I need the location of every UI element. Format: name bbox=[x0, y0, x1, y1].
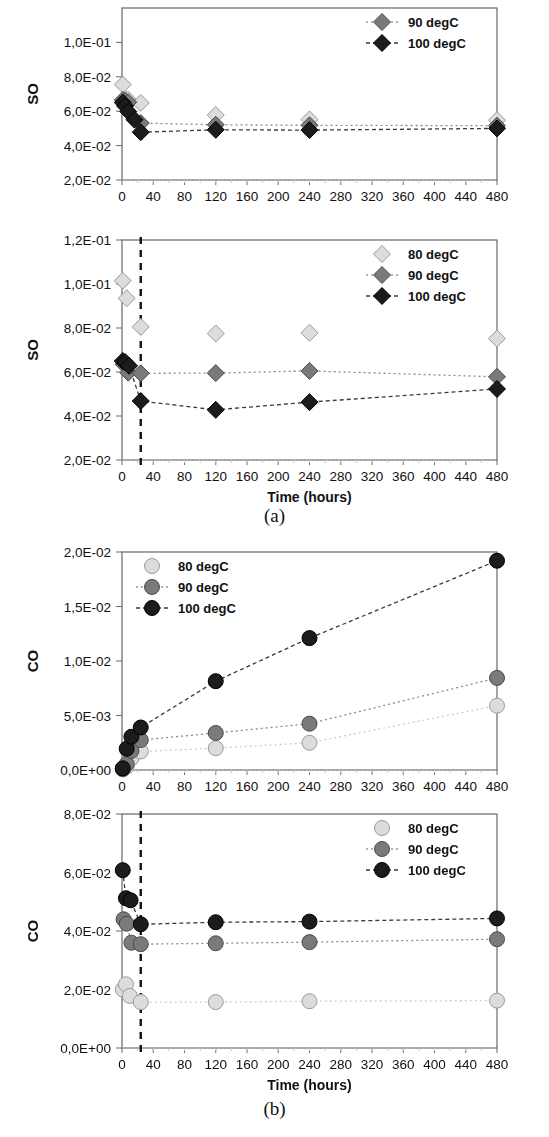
x-tick-label: 120 bbox=[204, 469, 227, 484]
x-tick-label: 360 bbox=[392, 779, 415, 794]
y-tick-label: 6,0E-02 bbox=[64, 365, 111, 380]
legend-label: 90 degC bbox=[408, 842, 459, 857]
y-axis-title: SO bbox=[24, 83, 41, 105]
y-tick-label: 0,0E+00 bbox=[60, 763, 111, 778]
legend-item: 80 degC bbox=[374, 246, 460, 263]
legend-label: 90 degC bbox=[178, 580, 229, 595]
x-tick-label: 400 bbox=[423, 1057, 446, 1072]
y-tick-label: 0,0E+00 bbox=[60, 1041, 111, 1056]
y-tick-label: 8,0E-02 bbox=[64, 321, 111, 336]
legend: 80 degC90 degC100 degC bbox=[366, 821, 466, 879]
x-tick-label: 80 bbox=[177, 469, 192, 484]
legend-item: 100 degC bbox=[136, 601, 236, 617]
x-tick-label: 400 bbox=[423, 189, 446, 204]
legend-item: 100 degC bbox=[366, 863, 466, 879]
x-tick-label: 0 bbox=[118, 189, 126, 204]
series-points bbox=[115, 698, 504, 777]
x-tick-label: 80 bbox=[177, 189, 192, 204]
series-points bbox=[115, 670, 504, 776]
x-tick-label: 200 bbox=[267, 469, 290, 484]
legend-item: 80 degC bbox=[375, 821, 460, 837]
y-tick-label: 8,0E-02 bbox=[64, 70, 111, 85]
x-tick-label: 240 bbox=[298, 779, 321, 794]
y-tick-label: 1,5E-02 bbox=[64, 600, 111, 615]
legend-item: 80 degC bbox=[145, 559, 230, 575]
legend-label: 90 degC bbox=[408, 268, 459, 283]
legend-item: 100 degC bbox=[366, 35, 466, 52]
y-axis-title: CO bbox=[24, 919, 41, 942]
x-tick-label: 160 bbox=[236, 1057, 259, 1072]
legend-label: 80 degC bbox=[408, 821, 459, 836]
y-tick-label: 4,0E-02 bbox=[64, 139, 111, 154]
x-tick-label: 320 bbox=[361, 189, 384, 204]
x-tick-label: 360 bbox=[392, 469, 415, 484]
x-tick-label: 40 bbox=[146, 469, 161, 484]
x-tick-label: 480 bbox=[486, 469, 509, 484]
x-tick-label: 480 bbox=[486, 189, 509, 204]
legend: 80 degC90 degC100 degC bbox=[136, 559, 236, 617]
chart-so-bottom: 2,0E-024,0E-026,0E-028,0E-021,0E-011,2E-… bbox=[0, 228, 549, 518]
x-axis-title: Time (hours) bbox=[267, 489, 352, 505]
legend-label: 100 degC bbox=[408, 36, 466, 51]
x-tick-label: 480 bbox=[486, 779, 509, 794]
legend-item: 90 degC bbox=[366, 14, 459, 31]
y-tick-label: 1,2E-01 bbox=[64, 233, 111, 248]
y-tick-label: 1,0E-01 bbox=[64, 277, 111, 292]
legend-label: 80 degC bbox=[408, 247, 459, 262]
y-tick-label: 4,0E-02 bbox=[64, 409, 111, 424]
x-tick-label: 120 bbox=[204, 779, 227, 794]
legend-item: 100 degC bbox=[366, 288, 466, 305]
x-tick-label: 40 bbox=[146, 189, 161, 204]
y-tick-label: 2,0E-02 bbox=[64, 983, 111, 998]
x-tick-label: 160 bbox=[236, 779, 259, 794]
legend-label: 80 degC bbox=[178, 559, 229, 574]
chart-so-top: 2,0E-024,0E-026,0E-028,0E-021,0E-0104080… bbox=[0, 0, 549, 234]
y-tick-label: 1,0E-02 bbox=[64, 654, 111, 669]
x-tick-label: 200 bbox=[267, 779, 290, 794]
y-tick-label: 5,0E-03 bbox=[64, 709, 111, 724]
y-tick-label: 8,0E-02 bbox=[64, 807, 111, 822]
legend: 90 degC100 degC bbox=[366, 14, 466, 52]
x-tick-label: 160 bbox=[236, 469, 259, 484]
x-tick-label: 440 bbox=[454, 1057, 477, 1072]
x-tick-label: 320 bbox=[361, 469, 384, 484]
x-tick-label: 240 bbox=[298, 189, 321, 204]
y-tick-label: 4,0E-02 bbox=[64, 924, 111, 939]
x-tick-label: 360 bbox=[392, 189, 415, 204]
legend-label: 100 degC bbox=[408, 863, 466, 878]
x-tick-label: 160 bbox=[236, 189, 259, 204]
legend: 80 degC90 degC100 degC bbox=[366, 246, 466, 305]
x-tick-label: 280 bbox=[329, 469, 352, 484]
y-axis-title: SO bbox=[24, 339, 41, 361]
legend-label: 90 degC bbox=[408, 15, 459, 30]
x-tick-label: 440 bbox=[454, 189, 477, 204]
x-tick-label: 240 bbox=[298, 469, 321, 484]
legend-label: 100 degC bbox=[178, 601, 236, 616]
series-points bbox=[115, 356, 505, 386]
x-tick-label: 280 bbox=[329, 779, 352, 794]
x-tick-label: 320 bbox=[361, 1057, 384, 1072]
y-tick-label: 1,0E-01 bbox=[64, 35, 111, 50]
legend-item: 90 degC bbox=[366, 267, 459, 284]
x-tick-label: 320 bbox=[361, 779, 384, 794]
x-tick-label: 200 bbox=[267, 189, 290, 204]
y-tick-label: 6,0E-02 bbox=[64, 866, 111, 881]
x-tick-label: 80 bbox=[177, 1057, 192, 1072]
x-tick-label: 40 bbox=[146, 1057, 161, 1072]
x-tick-label: 0 bbox=[118, 1057, 126, 1072]
x-tick-label: 120 bbox=[204, 1057, 227, 1072]
x-tick-label: 480 bbox=[486, 1057, 509, 1072]
caption-b: (b) bbox=[0, 1098, 549, 1120]
chart-co-top: 0,0E+005,0E-031,0E-021,5E-022,0E-0204080… bbox=[0, 540, 549, 818]
x-tick-label: 400 bbox=[423, 779, 446, 794]
legend-item: 90 degC bbox=[366, 842, 459, 858]
x-tick-label: 240 bbox=[298, 1057, 321, 1072]
series-points bbox=[115, 977, 504, 1010]
x-tick-label: 120 bbox=[204, 189, 227, 204]
y-tick-label: 2,0E-02 bbox=[64, 453, 111, 468]
x-tick-label: 80 bbox=[177, 779, 192, 794]
y-axis-title: CO bbox=[24, 649, 41, 672]
y-tick-label: 2,0E-02 bbox=[64, 173, 111, 188]
x-axis-title: Time (hours) bbox=[267, 1077, 352, 1093]
legend-item: 90 degC bbox=[136, 580, 229, 596]
